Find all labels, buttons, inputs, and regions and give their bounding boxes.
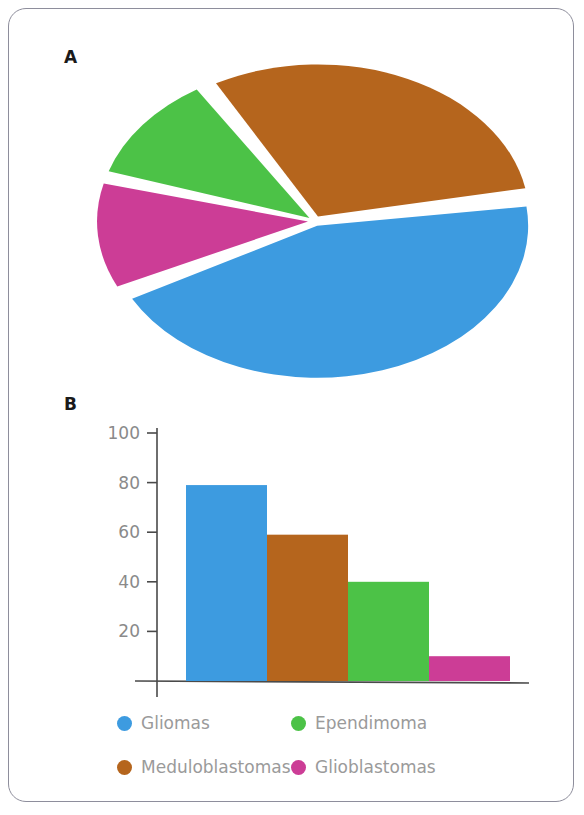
legend-swatch-glioblastomas (291, 760, 306, 775)
bar-chart-bars (186, 485, 510, 681)
legend-row: Meduloblastomas Glioblastomas (9, 745, 575, 789)
legend-swatch-ependimoma (291, 716, 306, 731)
x-axis-line (135, 681, 529, 683)
bar-meduloblastomas (267, 535, 348, 681)
legend-item-gliomas: Gliomas (9, 701, 271, 745)
y-axis-tick-label: 60 (118, 522, 140, 542)
y-axis-tick-label: 20 (118, 621, 140, 641)
pie-chart-svg (29, 64, 559, 384)
legend-item-meduloblastomas: Meduloblastomas (9, 745, 271, 789)
legend-label-glioblastomas: Glioblastomas (315, 757, 436, 777)
bar-ependimoma (348, 582, 429, 681)
bar-chart-panel: 20406080100 (9, 399, 575, 699)
bar-chart-svg: 20406080100 (9, 399, 575, 699)
pie-slice-group (97, 64, 528, 377)
bar-gliomas (186, 485, 267, 681)
y-axis-tick-label: 80 (118, 473, 140, 493)
bar-chart-tick-labels: 20406080100 (108, 423, 140, 641)
chart-legend: Gliomas Ependimoma Meduloblastomas Gliob… (9, 701, 575, 789)
legend-swatch-gliomas (117, 716, 132, 731)
legend-row: Gliomas Ependimoma (9, 701, 575, 745)
pie-chart-panel (29, 64, 559, 384)
legend-item-ependimoma: Ependimoma (271, 701, 571, 745)
legend-swatch-meduloblastomas (117, 760, 132, 775)
y-axis-tick-label: 40 (118, 572, 140, 592)
y-axis-tick-label: 100 (108, 423, 140, 443)
legend-label-meduloblastomas: Meduloblastomas (141, 757, 291, 777)
legend-label-gliomas: Gliomas (141, 713, 210, 733)
legend-label-ependimoma: Ependimoma (315, 713, 427, 733)
figure-card: A B 20406080100 Gliomas Ependimoma (8, 8, 574, 802)
bar-glioblastomas (429, 656, 510, 681)
legend-item-glioblastomas: Glioblastomas (271, 745, 571, 789)
